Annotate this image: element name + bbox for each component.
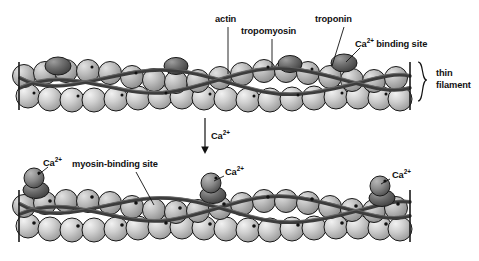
ca-left-base: Ca <box>43 158 55 168</box>
label-troponin: troponin <box>315 14 352 25</box>
label-ca-left: Ca2+ <box>43 154 62 169</box>
ca-right-base: Ca <box>392 170 404 180</box>
ca-binding-base: Ca <box>355 39 367 49</box>
label-arrow-ca: Ca2+ <box>211 127 230 142</box>
ca-left-sup: 2+ <box>55 156 62 163</box>
label-thin-filament: thin filament <box>436 68 471 91</box>
arrow-ca-base: Ca <box>211 131 223 141</box>
thin-filament-line2: filament <box>436 80 471 90</box>
label-myosin-binding-site: myosin-binding site <box>72 159 158 170</box>
ca-binding-sup: 2+ <box>367 37 374 44</box>
thin-filament-bracket <box>418 62 427 101</box>
ca-binding-tail: binding site <box>374 39 427 49</box>
label-tropomyosin: tropomyosin <box>241 26 296 37</box>
label-ca-binding-site: Ca2+ binding site <box>355 35 427 50</box>
label-ca-middle: Ca2+ <box>225 163 244 178</box>
label-actin: actin <box>215 14 236 25</box>
thin-filament-line1: thin <box>436 68 453 78</box>
top-thin-filament <box>13 54 413 112</box>
bottom-thin-filament <box>13 168 413 242</box>
label-ca-right: Ca2+ <box>392 166 411 181</box>
ca-middle-sup: 2+ <box>237 165 244 172</box>
arrow-ca-sup: 2+ <box>223 129 230 136</box>
ca-middle-base: Ca <box>225 167 237 177</box>
ca-right-sup: 2+ <box>404 168 411 175</box>
